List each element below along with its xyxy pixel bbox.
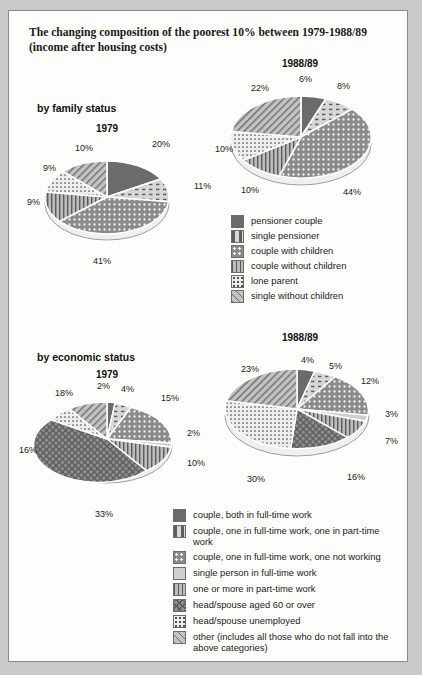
legend-label: couple, one in full-time work, one in pa… <box>193 525 389 548</box>
pct-econ-1979-single-person-fulltime: 2% <box>187 428 200 438</box>
legend-label: single person in full-time work <box>193 567 317 578</box>
legend-item: couple, both in full-time work <box>173 509 389 522</box>
pct-econ-1988-couple-both-fulltime: 4% <box>301 355 314 365</box>
year-label-family-1979: 1979 <box>87 123 127 134</box>
pct-econ-1988-head-aged-60-or-over: 16% <box>347 472 365 482</box>
legend-label: one or more in part-time work <box>193 583 315 594</box>
year-label-economic-1988: 1988/89 <box>277 332 323 343</box>
legend-family-status: pensioner couple single pensioner couple… <box>231 215 393 305</box>
legend-item: other (includes all those who do not fal… <box>173 631 389 654</box>
legend-economic-status: couple, both in full-time work couple, o… <box>173 509 389 657</box>
legend-swatch-lone-parent-icon <box>231 275 244 288</box>
pct-econ-1979-couple-one-fulltime-one-parttime: 4% <box>121 384 134 394</box>
section-label-economic-status: by economic status <box>37 351 135 363</box>
legend-swatch-head-unemployed-icon <box>173 615 186 628</box>
legend-label: couple without children <box>251 260 346 271</box>
pct-family-1979-lone-parent: 9% <box>43 163 56 173</box>
pct-econ-1979-one-or-more-parttime: 10% <box>187 458 205 468</box>
legend-item: head/spouse aged 60 or over <box>173 599 389 612</box>
legend-label: lone parent <box>251 275 298 286</box>
pct-family-1988-single-without-children: 22% <box>251 83 269 93</box>
pct-econ-1979-other: 18% <box>55 388 73 398</box>
pct-econ-1988-couple-one-fulltime-one-not-working: 12% <box>361 376 379 386</box>
legend-label: single pensioner <box>251 230 319 241</box>
legend-label: other (includes all those who do not fal… <box>193 631 389 654</box>
legend-item: couple, one in full-time work, one in pa… <box>173 525 389 548</box>
legend-swatch-couple-both-fulltime-icon <box>173 509 186 522</box>
legend-item: single pensioner <box>231 230 393 243</box>
pct-family-1988-lone-parent: 10% <box>215 144 233 154</box>
year-label-economic-1979: 1979 <box>87 369 127 380</box>
pie-chart-family-1979 <box>33 137 185 255</box>
legend-label: head/spouse aged 60 or over <box>193 599 315 610</box>
pct-family-1988-couple-with-children: 44% <box>343 187 361 197</box>
pct-econ-1979-couple-both-fulltime: 2% <box>97 381 110 391</box>
legend-swatch-single-pensioner-icon <box>231 230 244 243</box>
pct-family-1979-single-pensioner: 11% <box>194 181 211 191</box>
legend-item: head/spouse unemployed <box>173 615 389 628</box>
legend-swatch-head-aged-60-or-over-icon <box>173 599 186 612</box>
figure-title: The changing composition of the poorest … <box>29 25 389 55</box>
legend-label: single without children <box>251 290 343 301</box>
pct-econ-1979-head-aged-60-or-over: 33% <box>95 509 113 519</box>
legend-label: couple with children <box>251 245 333 256</box>
figure-page: The changing composition of the poorest … <box>0 0 422 675</box>
legend-item: one or more in part-time work <box>173 583 389 596</box>
pct-family-1979-couple-with-children: 41% <box>93 256 111 266</box>
year-label-family-1988: 1988/89 <box>277 58 323 69</box>
legend-swatch-couple-with-children-icon <box>231 245 244 258</box>
pct-family-1979-single-without-children: 10% <box>75 143 93 153</box>
legend-item: pensioner couple <box>231 215 393 228</box>
legend-swatch-couple-one-fulltime-one-parttime-icon <box>173 525 186 538</box>
pct-econ-1988-one-or-more-parttime: 7% <box>385 436 398 446</box>
legend-swatch-couple-without-children-icon <box>231 260 244 273</box>
pct-econ-1988-couple-one-fulltime-one-parttime: 5% <box>329 361 342 371</box>
legend-item: couple without children <box>231 260 393 273</box>
legend-swatch-one-or-more-parttime-icon <box>173 583 186 596</box>
legend-label: couple, one in full-time work, one not w… <box>193 551 381 562</box>
pct-econ-1988-other: 23% <box>241 364 259 374</box>
pct-family-1979-pensioner-couple: 20% <box>152 139 170 149</box>
legend-item: couple, one in full-time work, one not w… <box>173 551 389 564</box>
legend-label: head/spouse unemployed <box>193 615 300 626</box>
legend-swatch-pensioner-couple-icon <box>231 215 244 228</box>
figure-card: The changing composition of the poorest … <box>8 10 408 662</box>
legend-item: single without children <box>231 290 393 303</box>
pct-econ-1979-couple-one-fulltime-one-not-working: 15% <box>161 393 179 403</box>
legend-item: single person in full-time work <box>173 567 389 580</box>
pct-family-1988-pensioner-couple: 6% <box>299 74 312 84</box>
pct-econ-1988-single-person-fulltime: 3% <box>385 409 398 419</box>
pct-family-1988-single-pensioner: 8% <box>337 81 350 91</box>
pct-family-1979-couple-without-children: 9% <box>27 197 40 207</box>
section-label-family-status: by family status <box>37 102 116 114</box>
legend-swatch-couple-one-fulltime-one-not-working-icon <box>173 551 186 564</box>
legend-swatch-single-without-children-icon <box>231 290 244 303</box>
pct-family-1988-couple-without-children: 10% <box>241 185 259 195</box>
pie-chart-family-1988 <box>217 73 389 201</box>
legend-swatch-single-person-fulltime-icon <box>173 567 186 580</box>
legend-label: couple, both in full-time work <box>193 509 312 520</box>
legend-swatch-other-icon <box>173 631 186 644</box>
pct-econ-1988-head-unemployed: 30% <box>247 474 265 484</box>
pct-econ-1979-head-unemployed: 16% <box>19 445 37 455</box>
legend-item: lone parent <box>231 275 393 288</box>
pie-chart-economic-1988 <box>209 347 389 479</box>
legend-label: pensioner couple <box>251 215 322 226</box>
legend-item: couple with children <box>231 245 393 258</box>
